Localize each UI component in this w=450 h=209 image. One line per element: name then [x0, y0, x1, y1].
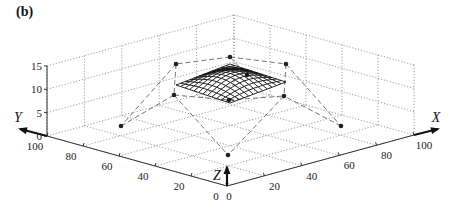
y-tick-label: 20	[174, 180, 186, 192]
y-tick-label: 80	[66, 150, 78, 162]
z-tick-label: 10	[31, 83, 43, 95]
x-tick-label: 0	[226, 190, 232, 202]
x-tick-label: 80	[381, 149, 393, 161]
y-tick-label: 40	[138, 170, 150, 182]
control-point	[119, 124, 124, 129]
control-point	[282, 94, 287, 99]
z-axis-label: Z	[213, 168, 221, 183]
x-tick-label: 100	[416, 139, 433, 151]
control-point	[228, 55, 233, 60]
x-tick-label: 60	[344, 159, 356, 171]
z-tick-label: 15	[31, 60, 43, 72]
control-point	[339, 124, 344, 129]
control-point	[172, 93, 177, 98]
y-tick-label: 0	[213, 190, 219, 202]
x-axis-label: X	[431, 110, 441, 125]
y-axis-label: Y	[14, 110, 24, 125]
3d-surface-plot: 051015020406080100020406080100XYZ	[0, 0, 450, 209]
control-point	[174, 62, 179, 67]
z-tick-label: 5	[37, 107, 43, 119]
y-tick-label: 100	[27, 140, 44, 152]
y-tick-label: 60	[102, 160, 114, 172]
control-point	[226, 153, 231, 158]
x-tick-label: 40	[306, 170, 318, 182]
control-point	[284, 62, 289, 67]
x-tick-label: 20	[269, 180, 281, 192]
